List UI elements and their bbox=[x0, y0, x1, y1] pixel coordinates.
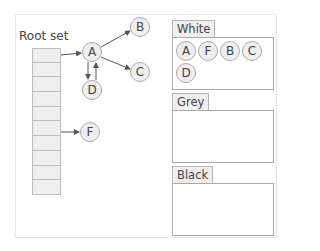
grey-set-box bbox=[172, 110, 274, 163]
white-member-d: D bbox=[176, 63, 196, 83]
edge-root-to-a bbox=[61, 53, 81, 55]
white-member-a: A bbox=[176, 41, 196, 61]
black-set-tab: Black bbox=[172, 166, 213, 183]
white-set-box: A F B C D bbox=[172, 37, 274, 90]
node-a: A bbox=[82, 42, 102, 62]
black-set-box bbox=[172, 183, 274, 236]
node-b: B bbox=[130, 17, 150, 37]
grey-set-tab: Grey bbox=[172, 93, 209, 110]
white-member-c: C bbox=[242, 41, 262, 61]
node-f: F bbox=[80, 122, 100, 142]
node-d: D bbox=[82, 80, 102, 100]
node-c: C bbox=[130, 62, 150, 82]
edge-a-to-c bbox=[101, 57, 130, 69]
white-member-f: F bbox=[198, 41, 218, 61]
white-set-tab: White bbox=[172, 20, 215, 37]
white-member-b: B bbox=[220, 41, 240, 61]
edge-a-to-b bbox=[101, 31, 130, 47]
